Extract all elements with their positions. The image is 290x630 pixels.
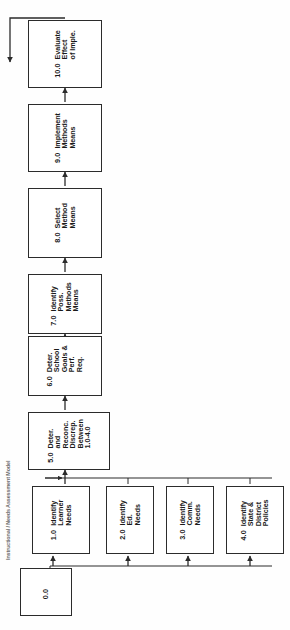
node-3-line-3: Needs — [194, 504, 201, 525]
node-4[interactable]: 4.0 Identify State & District Policies — [226, 486, 284, 554]
node-9-line-3: Means — [69, 126, 76, 148]
node-1-lines: Identify Learner Needs — [50, 500, 72, 526]
node-5[interactable]: 5.0 Deter. and Reconc. Discrep. Between … — [28, 412, 110, 470]
node-6-line-5: Req. — [76, 357, 83, 372]
node-7-line-4: Means — [72, 289, 79, 311]
flowchart-canvas: Instructional / Needs Assessment Model 1… — [0, 0, 290, 630]
node-3[interactable]: 3.0 Identify Comm. Needs — [166, 486, 214, 554]
node-2-line-3: Needs — [134, 504, 141, 525]
node-5-id: 5.0 — [47, 452, 54, 462]
node-9-id: 9.0 — [54, 153, 61, 163]
node-10-lines: Evaluate Effect of Imple. — [54, 30, 76, 59]
diagram-title-label: Instructional / Needs Assessment Model — [5, 461, 11, 560]
node-0[interactable]: 0.0 — [20, 568, 72, 616]
connector-0-distribution-bus — [50, 566, 272, 586]
node-7-lines: Identify Poss. Methods Means — [50, 282, 80, 311]
node-8-line-3: Means — [69, 206, 76, 228]
node-10-line-3: of Imple. — [69, 30, 76, 59]
node-8-lines: Select Method Means — [54, 203, 76, 228]
node-7-id: 7.0 — [50, 315, 57, 325]
node-6-id: 6.0 — [46, 376, 53, 386]
node-1-id: 1.0 — [50, 530, 57, 540]
node-9[interactable]: 9.0 Implement Methods Means — [28, 104, 102, 172]
node-8[interactable]: 8.0 Select Method Means — [28, 188, 102, 258]
node-7[interactable]: 7.0 Identify Poss. Methods Means — [28, 274, 102, 334]
node-3-lines: Identify Comm. Needs — [179, 500, 201, 525]
node-3-id: 3.0 — [179, 529, 186, 539]
node-5-lines: Deter. and Reconc. Discrep. Between 1.0-… — [47, 419, 92, 448]
node-2-lines: Identify Ed. Needs — [119, 500, 141, 525]
node-8-id: 8.0 — [54, 232, 61, 242]
node-1-line-3: Needs — [65, 505, 72, 526]
node-9-lines: Implement Methods Means — [54, 113, 76, 149]
node-10-id: 10.0 — [54, 63, 61, 77]
node-1[interactable]: 1.0 Identify Learner Needs — [32, 486, 90, 554]
node-2[interactable]: 2.0 Identify Ed. Needs — [106, 486, 154, 554]
node-4-lines: Identify State & District Policies — [240, 499, 270, 526]
node-10[interactable]: 10.0 Evaluate Effect of Imple. — [28, 20, 102, 88]
node-0-id: 0.0 — [42, 589, 49, 599]
node-4-line-4: Policies — [262, 499, 269, 526]
node-6[interactable]: 6.0 Deter. School Goals & Perf. Req. — [28, 336, 102, 396]
node-4-id: 4.0 — [240, 530, 247, 540]
node-2-id: 2.0 — [119, 529, 126, 539]
node-5-line-6: 1.0-4.0 — [84, 426, 91, 448]
node-6-lines: Deter. School Goals & Perf. Req. — [46, 345, 83, 372]
